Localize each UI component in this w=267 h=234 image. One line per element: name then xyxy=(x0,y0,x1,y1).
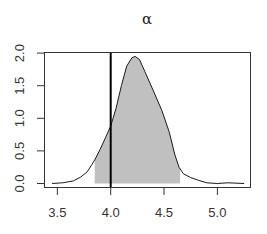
x-tick-label: 5.0 xyxy=(208,205,226,220)
y-tick-label: 1.5 xyxy=(12,77,27,95)
x-axis: 3.54.04.55.0 xyxy=(48,188,226,221)
x-tick-label: 3.5 xyxy=(48,205,66,220)
y-tick-label: 1.0 xyxy=(12,109,27,127)
y-tick-label: 0.0 xyxy=(12,174,27,192)
x-tick-label: 4.5 xyxy=(155,205,173,220)
y-axis: 0.00.51.01.52.0 xyxy=(12,44,45,192)
y-tick-label: 0.5 xyxy=(12,142,27,160)
x-tick-label: 4.0 xyxy=(102,205,120,220)
plot-area xyxy=(45,53,251,188)
credible-interval-shading xyxy=(95,56,180,183)
chart-title: α xyxy=(142,10,152,28)
y-tick-label: 2.0 xyxy=(12,44,27,62)
density-chart: α 3.54.04.55.0 0.00.51.01.52.0 xyxy=(0,0,267,234)
